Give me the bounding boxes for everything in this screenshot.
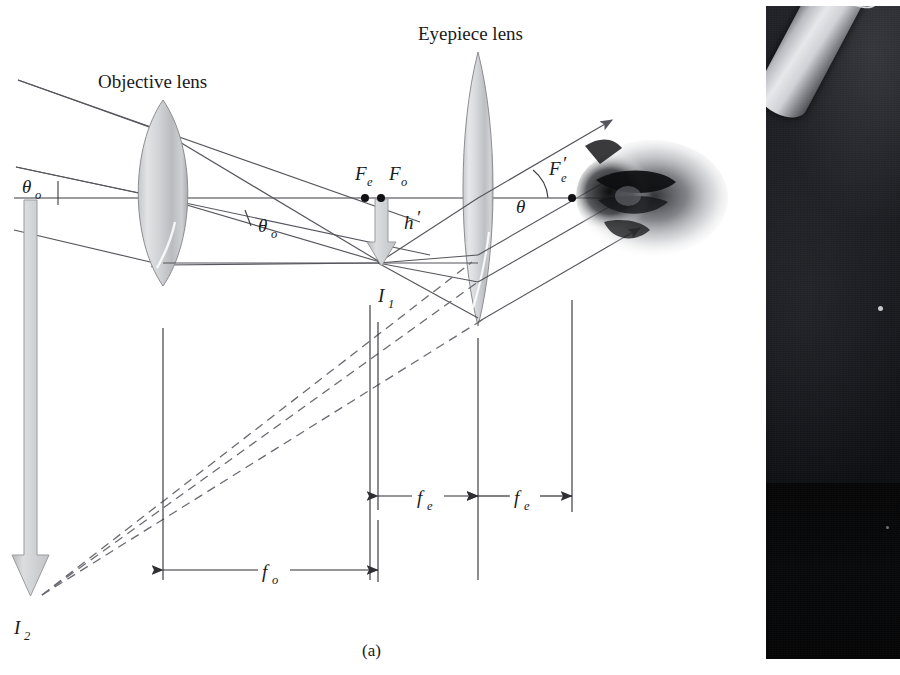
h-prime-arrow: [367, 199, 396, 266]
fe-right-label: f e: [514, 487, 530, 513]
fe-right-subscript: e: [524, 499, 530, 513]
theta-o-incoming-subscript: o: [35, 188, 41, 202]
fo-subscript: o: [272, 573, 278, 587]
photo-grain: [766, 6, 900, 659]
telescope-photograph: [766, 6, 900, 659]
I2-subscript: 2: [24, 629, 30, 643]
h-prime-label: h ′: [404, 207, 421, 233]
theta-o-inside-label: θ o: [258, 215, 277, 241]
figure-caption: (a): [362, 641, 381, 660]
Fe-subscript: e: [367, 175, 373, 189]
objective-lens: [138, 100, 188, 286]
Fo-label: F o: [388, 163, 407, 189]
I2-arrow: [12, 200, 49, 596]
theta-o-inside-glyph: θ: [258, 215, 267, 236]
focal-point-Fe-dot: [361, 194, 369, 202]
Fe-glyph: F: [354, 163, 367, 184]
incoming-rays: [14, 80, 380, 265]
eyepiece-lens-label: Eyepiece lens: [418, 23, 523, 44]
Fe-prime-label: F e ′: [548, 153, 567, 185]
fe-left-subscript: e: [427, 499, 433, 513]
fe-left-glyph: f: [417, 487, 425, 508]
focal-point-Fe-prime-dot: [568, 194, 576, 202]
virtual-image-dashed-rays: [42, 262, 482, 595]
theta-eye-label: θ: [516, 196, 525, 217]
fe-right-glyph: f: [514, 487, 522, 508]
theta-o-incoming-glyph: θ: [22, 176, 31, 197]
I1-glyph: I: [377, 285, 386, 306]
theta-o-inside-subscript: o: [271, 227, 277, 241]
I2-label: I 2: [13, 617, 30, 643]
h-prime-glyph: h: [404, 212, 414, 233]
Fo-glyph: F: [388, 163, 401, 184]
I2-glyph: I: [13, 617, 22, 638]
Fo-subscript: o: [401, 175, 407, 189]
telescope-photograph-panel: [760, 0, 900, 675]
fo-label: f o: [262, 561, 278, 587]
eyepiece-lens: [463, 52, 493, 326]
objective-lens-label: Objective lens: [98, 71, 207, 92]
h-prime-mark: ′: [416, 207, 421, 228]
telescope-ray-diagram: Objective lens Eyepiece lens θ o θ o θ F…: [0, 0, 760, 675]
I1-subscript: 1: [388, 297, 394, 311]
theta-eye-arc: [533, 170, 548, 198]
fo-glyph: f: [262, 561, 270, 582]
Fe-label: F e: [354, 163, 373, 189]
eye-photo: [576, 139, 728, 256]
I1-label: I 1: [377, 285, 394, 311]
fe-left-label: f e: [417, 487, 433, 513]
Fe-prime-glyph: F: [548, 158, 561, 179]
focal-point-Fo-dot: [377, 194, 385, 202]
figure-root: Objective lens Eyepiece lens θ o θ o θ F…: [0, 0, 900, 675]
